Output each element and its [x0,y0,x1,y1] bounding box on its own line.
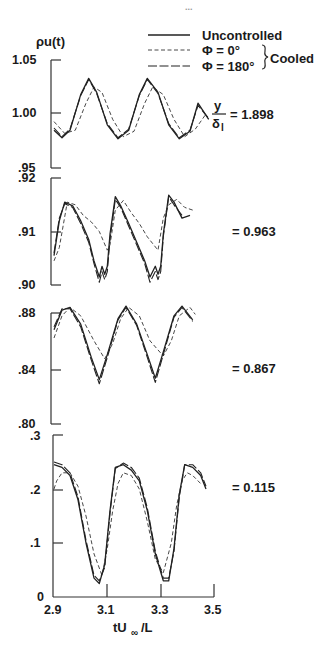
p4-tick-0: 0 [37,590,44,604]
legend-label-phi0: Φ = 0° [202,43,240,58]
p4-tick-0.2: .2 [30,483,40,497]
panel-4-series-3 [54,462,206,581]
panel-1-series-2 [54,87,206,137]
p1-tick-1.05: 1.05 [12,53,36,67]
y-axis-label: ρu(t) [36,34,65,49]
p3-tick-0.88: .88 [18,306,35,320]
p2-tick-0.92: .92 [18,171,35,185]
panel-2-value: = 0.963 [232,224,276,239]
panel-3-series-3 [54,307,193,383]
x-axis-label: tU ∞ /L [113,620,153,638]
panel-1-annotation: y δ l = 1.898 [212,98,274,133]
x-tick-3.3: 3.3 [151,603,168,617]
svg-text:/L: /L [141,620,153,635]
legend-brace-icon [262,45,268,69]
x-tick-3.1: 3.1 [97,603,114,617]
x-axis-ticks: 2.9 3.1 3.3 3.5 [44,603,221,617]
chart-canvas: ... ρu(t) Uncontrolled Φ = 0° Φ = 180° C… [0,0,328,655]
p2-tick-0.90: .90 [18,278,35,292]
panel-1-series-3 [54,79,209,137]
fraction-numerator: y [214,98,222,113]
x-tick-3.5: 3.5 [204,603,221,617]
series-layer [54,78,209,583]
legend: Uncontrolled Φ = 0° Φ = 180° Cooled [148,28,314,74]
panel-4-axes: .3 .2 .1 0 [30,429,214,604]
panel-3-value: = 0.867 [232,361,276,376]
x-tick-2.9: 2.9 [44,603,61,617]
legend-group-label: Cooled [270,51,314,66]
panel-4-series-1 [54,465,206,584]
panel-1-axes: 1.05 1.00 .95 [12,53,61,175]
panel-1-series-1 [54,78,209,138]
panel-2-series-1 [54,195,190,277]
p4-tick-0.3: .3 [30,429,40,443]
svg-text:∞: ∞ [131,627,138,638]
panel-4-value: = 0.115 [232,480,275,495]
legend-label-uncontrolled: Uncontrolled [202,28,282,43]
fraction-subscript: l [221,122,224,133]
panel-1-value: = 1.898 [230,107,274,122]
panel-4-series-2 [54,473,201,576]
svg-text:tU: tU [113,620,127,635]
p3-tick-0.84: .84 [18,363,35,377]
page-mark: ... [185,2,193,12]
fraction-denominator: δ [212,116,220,131]
p1-tick-1.00: 1.00 [12,106,36,120]
p2-tick-0.91: .91 [18,225,35,239]
legend-label-phi180: Φ = 180° [202,59,254,74]
panel-2-axes: .92 .91 .90 [18,171,61,292]
p4-tick-0.1: .1 [30,536,40,550]
